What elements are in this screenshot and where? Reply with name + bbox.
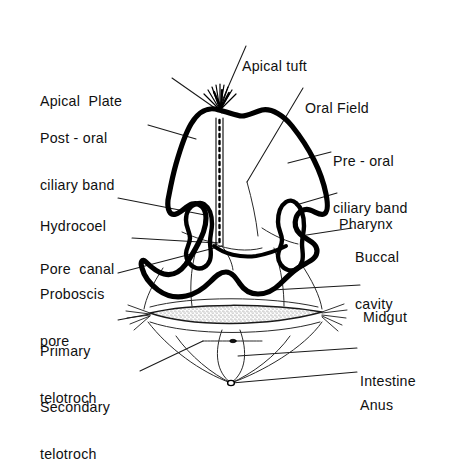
label-proboscis-line1: Proboscis bbox=[40, 287, 105, 303]
telotroch-cilia-right bbox=[322, 304, 347, 331]
label-secondary-telotroch: Secondary telotroch bbox=[40, 369, 110, 463]
label-anus-line1: Anus bbox=[360, 398, 393, 414]
leader-intestine bbox=[238, 348, 357, 356]
anus-marker bbox=[228, 380, 235, 385]
label-post-oral-line1: Post - oral bbox=[40, 131, 115, 147]
leader-anus bbox=[232, 372, 357, 383]
oral-field-contour bbox=[247, 182, 258, 236]
body-lower-right-contour bbox=[300, 262, 322, 309]
apical-tuft-cilia bbox=[204, 84, 236, 110]
proboscis-pore-marker bbox=[230, 339, 236, 342]
posterior-inner-left bbox=[176, 336, 231, 383]
primary-telotroch-band bbox=[150, 305, 322, 323]
label-primary-telotroch-line1: Primary bbox=[40, 344, 97, 360]
label-pre-oral-line1: Pre - oral bbox=[333, 154, 408, 170]
telotroch-cilia-left bbox=[126, 305, 150, 330]
label-secondary-telotroch-line2: telotroch bbox=[40, 447, 110, 463]
label-secondary-telotroch-line1: Secondary bbox=[40, 400, 110, 416]
label-anus: Anus bbox=[360, 367, 393, 445]
label-oral-field-line1: Oral Field bbox=[305, 101, 369, 117]
label-midgut-line1: Midgut bbox=[363, 310, 407, 326]
leader-pharynx bbox=[296, 193, 337, 205]
intestine-loop bbox=[217, 330, 244, 383]
pore-canal-channel bbox=[216, 118, 223, 246]
label-apical-tuft: Apical tuft bbox=[242, 28, 307, 106]
posterior-inner-right bbox=[231, 336, 290, 383]
label-buccal-line1: Buccal bbox=[355, 250, 399, 266]
leader-proboscis-pore bbox=[118, 246, 222, 273]
label-apical-tuft-line1: Apical tuft bbox=[242, 59, 307, 75]
